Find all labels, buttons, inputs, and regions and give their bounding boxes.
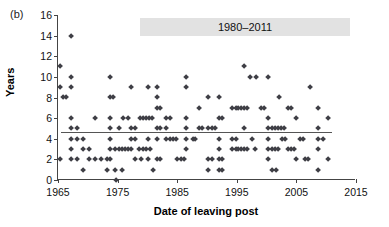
data-point — [146, 136, 152, 142]
x-tick — [58, 179, 59, 183]
data-point — [149, 115, 155, 121]
data-point — [147, 146, 153, 152]
data-point — [216, 146, 222, 152]
data-point — [157, 125, 163, 131]
data-point — [157, 156, 163, 162]
data-points-layer — [58, 15, 355, 179]
data-point — [183, 84, 189, 90]
data-point — [205, 167, 211, 173]
data-point — [209, 156, 215, 162]
data-point — [164, 125, 170, 131]
data-point — [128, 84, 134, 90]
data-point — [325, 156, 331, 162]
data-point — [57, 64, 63, 70]
data-point — [252, 146, 258, 152]
data-point — [154, 95, 160, 101]
data-point — [86, 156, 92, 162]
data-point — [276, 95, 282, 101]
data-point — [265, 115, 271, 121]
data-point — [216, 136, 222, 142]
data-point — [315, 125, 321, 131]
data-point — [183, 136, 189, 142]
data-point — [300, 136, 306, 142]
data-point — [183, 125, 189, 131]
mean-reference-line — [61, 132, 332, 133]
data-point — [241, 64, 247, 70]
data-point — [128, 146, 134, 152]
data-point — [150, 167, 156, 173]
y-tick-label: 8 — [46, 92, 52, 104]
data-point — [116, 125, 122, 131]
data-point — [245, 105, 251, 111]
data-point — [167, 115, 173, 121]
data-point — [98, 156, 104, 162]
x-tick-label: 2005 — [285, 186, 308, 198]
y-tick-label: 16 — [40, 9, 52, 21]
data-point — [104, 167, 110, 173]
data-point — [325, 115, 331, 121]
data-point — [154, 136, 160, 142]
data-point — [281, 125, 287, 131]
data-point — [57, 84, 63, 90]
data-point — [133, 136, 139, 142]
data-point — [110, 95, 116, 101]
y-tick-label: 10 — [40, 71, 52, 83]
data-point — [119, 167, 125, 173]
data-point — [273, 167, 279, 173]
data-point — [173, 136, 179, 142]
data-point — [93, 115, 99, 121]
data-point — [220, 167, 226, 173]
y-tick-label: 12 — [40, 50, 52, 62]
data-point — [265, 74, 271, 80]
x-tick-label: 1975 — [106, 186, 129, 198]
data-point — [307, 84, 313, 90]
data-point — [92, 156, 98, 162]
data-point — [288, 105, 294, 111]
data-point — [196, 105, 202, 111]
data-point — [212, 125, 218, 131]
panel-label: (b) — [10, 8, 23, 20]
data-point — [320, 136, 326, 142]
data-point — [80, 136, 86, 142]
data-point — [293, 115, 299, 121]
data-point — [183, 115, 189, 121]
data-point — [293, 156, 299, 162]
x-tick-label: 2015 — [344, 186, 367, 198]
data-point — [265, 136, 271, 142]
data-point — [125, 115, 131, 121]
data-point — [86, 146, 92, 152]
y-tick-label: 6 — [46, 112, 52, 124]
data-point — [245, 146, 251, 152]
data-point — [68, 156, 74, 162]
data-point — [220, 156, 226, 162]
x-tick — [237, 179, 238, 183]
plot-area: 0246810121416 196519751985199520052015 — [57, 15, 355, 180]
data-point — [205, 95, 211, 101]
data-point — [249, 136, 255, 142]
y-tick-label: 14 — [40, 30, 52, 42]
data-point — [261, 105, 267, 111]
x-tick-label: 1965 — [46, 186, 69, 198]
data-point — [133, 125, 139, 131]
y-axis-title: Years — [4, 68, 16, 97]
data-point — [107, 125, 113, 131]
x-axis-title: Date of leaving post — [57, 205, 355, 217]
data-point — [183, 146, 189, 152]
data-point — [146, 156, 152, 162]
data-point — [74, 125, 80, 131]
data-point — [68, 33, 74, 39]
data-point — [315, 146, 321, 152]
data-point — [68, 84, 74, 90]
x-tick-label: 1985 — [166, 186, 189, 198]
data-point — [154, 84, 160, 90]
data-point — [253, 74, 259, 80]
data-point — [138, 156, 144, 162]
data-point — [68, 125, 74, 131]
data-point — [216, 95, 222, 101]
data-point — [199, 125, 205, 131]
scatter-plot-figure: (b) Years Date of leaving post 1980–2011… — [0, 0, 389, 227]
data-point — [107, 115, 113, 121]
data-point — [80, 167, 86, 173]
y-tick-label: 2 — [46, 153, 52, 165]
x-tick — [296, 179, 297, 183]
